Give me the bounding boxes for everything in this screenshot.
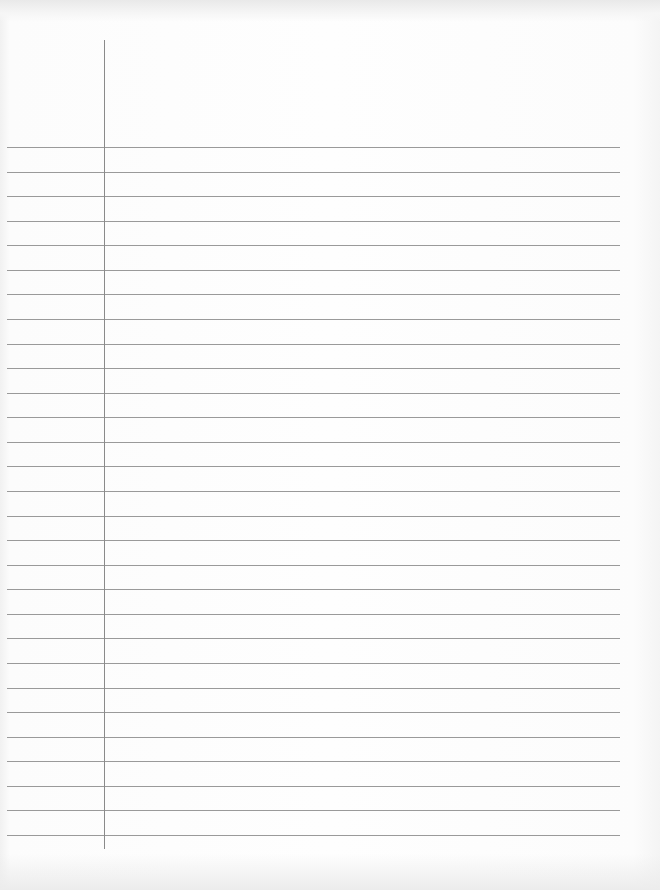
rule-line	[7, 294, 620, 295]
rule-line	[7, 319, 620, 320]
rule-line	[7, 786, 620, 787]
rule-line	[7, 147, 620, 148]
rule-line	[7, 466, 620, 467]
rule-line	[7, 221, 620, 222]
rule-line	[7, 368, 620, 369]
rule-line	[7, 810, 620, 811]
rule-line	[7, 737, 620, 738]
rule-line	[7, 589, 620, 590]
scan-shadow-top	[0, 0, 660, 22]
rule-line	[7, 638, 620, 639]
rule-line	[7, 393, 620, 394]
rule-line	[7, 614, 620, 615]
rule-line	[7, 688, 620, 689]
rule-line	[7, 540, 620, 541]
rule-line	[7, 245, 620, 246]
rule-line	[7, 663, 620, 664]
rule-line	[7, 196, 620, 197]
rule-line	[7, 516, 620, 517]
rule-line	[7, 761, 620, 762]
lined-paper-page	[0, 0, 660, 890]
rule-line	[7, 172, 620, 173]
rule-line	[7, 417, 620, 418]
scan-shadow-bottom	[0, 854, 660, 890]
margin-line	[104, 40, 105, 849]
rule-line	[7, 442, 620, 443]
rule-line	[7, 270, 620, 271]
rule-line	[7, 491, 620, 492]
rule-line	[7, 344, 620, 345]
rule-line	[7, 712, 620, 713]
rule-line	[7, 835, 620, 836]
rule-line	[7, 565, 620, 566]
